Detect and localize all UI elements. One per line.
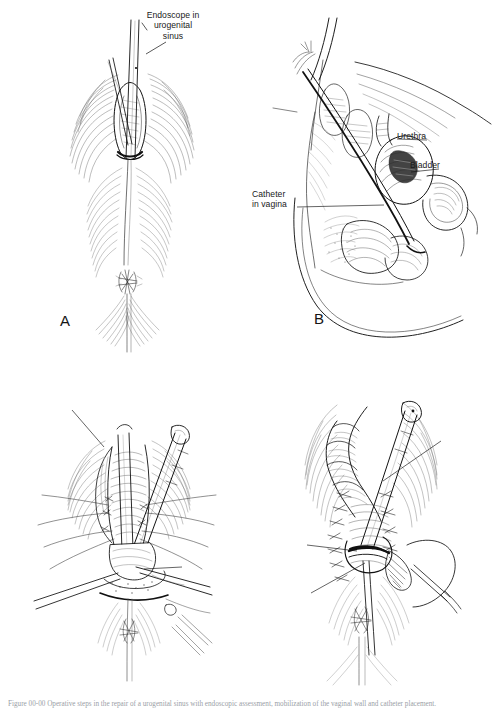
leader-line-endoscope [146, 42, 166, 54]
figure-caption: Figure 00-00 Operative steps in the repa… [8, 700, 495, 711]
panel-d-illustration [251, 355, 501, 685]
panel-b-illustration [251, 0, 501, 355]
leader-line-urethral-catheter-in-place [311, 563, 365, 593]
leader-line-urogenital-sinus-incised [72, 410, 104, 447]
panel-letter-a: A [60, 312, 70, 329]
label-catheter-in-vagina: Catheter in vagina [252, 189, 316, 210]
surgical-figure: Endoscope in urogenital sinus A [0, 0, 501, 711]
panel-c: Urogenital sinus incised Freeing the pos… [0, 355, 251, 685]
panel-a: Endoscope in urogenital sinus A [0, 0, 251, 355]
label-urethra: Urethra [397, 131, 467, 141]
label-bladder: Bladder [410, 160, 480, 170]
panel-b: Urethra Bladder Catheter in vagina B [251, 0, 501, 355]
panel-d: In bladder Septum Urethral catheter in p… [251, 355, 501, 685]
panel-a-illustration [0, 0, 251, 355]
panel-c-illustration [0, 355, 251, 685]
panel-letter-b: B [314, 310, 324, 327]
label-endoscope-in-urogenital-sinus: Endoscope in urogenital sinus [125, 10, 221, 41]
